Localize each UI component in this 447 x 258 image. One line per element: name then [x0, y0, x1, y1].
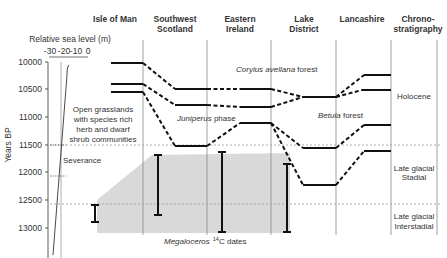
holocene-label: Holocene — [397, 92, 431, 101]
juniperus-label: Juniperus phase — [176, 114, 236, 123]
y-axis: 10000 10500 11000 11500 12000 12500 1300… — [3, 57, 48, 258]
header-eastern-ireland-line1: Eastern — [224, 14, 255, 24]
corylus-label: Corylus avellana forest — [236, 65, 318, 74]
interstadial-label-line1: Late glacial — [394, 212, 435, 221]
interstadial-label-line2: Interstadial — [394, 222, 433, 231]
sea-tick-m10: -10 — [70, 46, 83, 56]
y-tick-10000: 10000 — [18, 57, 42, 67]
y-tick-13000: 13000 — [18, 223, 42, 233]
header-lake-district-line1: Lake — [294, 14, 314, 24]
megaloceros-shaded-area — [97, 153, 290, 233]
grasslands-line1: Open grasslands — [73, 105, 133, 114]
vegetation-chronology-diagram: 10000 10500 11000 11500 12000 12500 1300… — [0, 0, 447, 258]
header-lake-district-line2: District — [289, 24, 318, 34]
y-tick-11000: 11000 — [19, 112, 42, 122]
stadial-label-line1: Late glacial — [394, 164, 435, 173]
header-southwest-scotland-line2: Scotland — [157, 24, 193, 34]
header-lancashire: Lancashire — [340, 14, 385, 24]
y-tick-12500: 12500 — [18, 195, 42, 205]
header-chrono-line2: stratigraphy — [393, 24, 442, 34]
grasslands-line3: herb and dwarf — [76, 125, 130, 134]
grasslands-line4: shrub communities — [69, 135, 136, 144]
y-tick-12000: 12000 — [18, 167, 42, 177]
sea-tick-m30: -30 — [44, 46, 57, 56]
stadial-label-line2: Stadial — [402, 173, 427, 182]
sea-tick-m20: -20 — [58, 46, 71, 56]
sea-tick-0: 0 — [86, 46, 91, 56]
sea-level-label: Relative sea level (m) — [29, 34, 111, 44]
header-chrono-line1: Chrono- — [401, 14, 434, 24]
column-headers: Isle of Man Southwest Scotland Eastern I… — [93, 14, 443, 34]
header-isle-of-man: Isle of Man — [93, 14, 137, 24]
header-southwest-scotland-line1: Southwest — [154, 14, 197, 24]
y-tick-11500: 11500 — [19, 140, 42, 150]
severance-label: Severance — [63, 156, 102, 165]
grasslands-line2: with species rich — [73, 115, 133, 124]
chronostratigraphy-labels: Holocene Late glacial Stadial Late glaci… — [394, 92, 435, 231]
betula-label: Betula forest — [318, 111, 364, 120]
y-axis-label: Years BP — [3, 127, 13, 162]
megaloceros-label: Megaloceros14C dates — [164, 236, 247, 246]
header-eastern-ireland-line2: Ireland — [226, 24, 254, 34]
y-tick-10500: 10500 — [18, 84, 42, 94]
